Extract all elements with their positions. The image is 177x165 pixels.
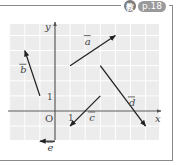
x-axis-label: x [155,113,161,124]
vector-label-b: b [20,64,26,75]
y-axis-label: y [44,21,51,32]
origin-label: O [45,113,53,124]
x-tick-1: 1 [68,113,74,123]
vector-label-e: e [47,142,53,153]
y-tick-1: 1 [47,92,53,102]
vector-label-a: a [85,36,91,47]
vector-label-d: d [129,97,135,108]
vector-diagram: x y O 1 1 abcde [0,0,177,165]
vector-label-c: c [89,112,95,123]
